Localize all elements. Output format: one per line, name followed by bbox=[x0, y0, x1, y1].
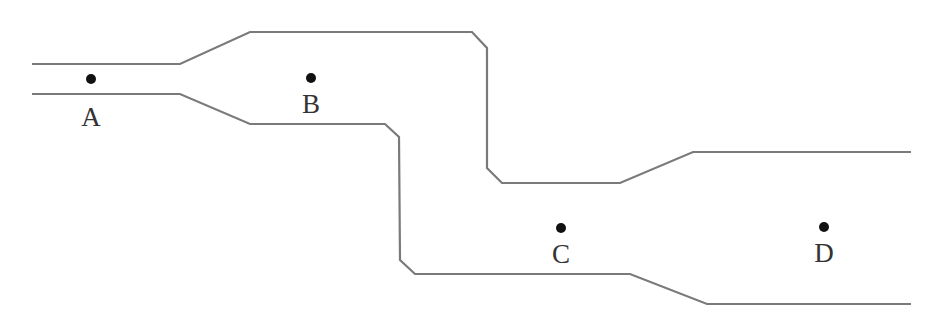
point-d: D bbox=[814, 222, 834, 268]
pipe-upper-wall bbox=[32, 32, 911, 183]
point-c-dot bbox=[556, 223, 566, 233]
point-c-label: C bbox=[552, 239, 570, 269]
point-a: A bbox=[81, 74, 101, 132]
point-b: B bbox=[302, 73, 320, 119]
point-d-label: D bbox=[814, 238, 834, 268]
point-a-dot bbox=[86, 74, 96, 84]
point-c: C bbox=[552, 223, 570, 269]
point-a-label: A bbox=[81, 102, 101, 132]
pipe-lower-wall bbox=[32, 94, 911, 304]
pipe-diagram: A B C D bbox=[0, 0, 942, 316]
point-b-label: B bbox=[302, 89, 320, 119]
point-b-dot bbox=[306, 73, 316, 83]
point-d-dot bbox=[819, 222, 829, 232]
